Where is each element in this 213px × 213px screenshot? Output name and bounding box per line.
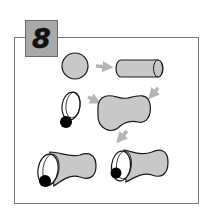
arrow-down-left-icon — [120, 131, 127, 139]
assembled-figure-right — [110, 150, 168, 182]
arrow-right-icon — [96, 66, 108, 67]
circle-shape — [62, 53, 88, 79]
peanut-body-shape — [98, 96, 150, 131]
assembly-diagram — [0, 0, 213, 213]
cylinder-shape — [116, 60, 163, 77]
arrow-right-icon — [88, 97, 96, 101]
arrow-down-left-icon — [152, 88, 158, 95]
eye-shape — [60, 91, 82, 128]
assembled-figure-left — [36, 152, 96, 187]
